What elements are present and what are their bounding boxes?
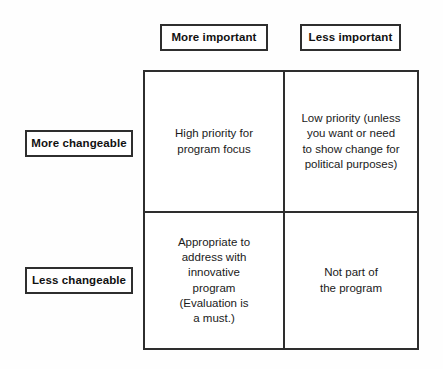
quadrant-low-priority: Low priority (unless you want or need to… <box>285 72 417 213</box>
column-header-more-important-label: More important <box>171 31 256 44</box>
quadrant-not-part-of-program: Not part of the program <box>285 213 417 348</box>
column-header-less-important-label: Less important <box>309 31 393 44</box>
quadrant-high-priority: High priority for program focus <box>145 72 285 213</box>
row-header-more-changeable-label: More changeable <box>31 137 126 150</box>
row-header-less-changeable-label: Less changeable <box>32 274 126 287</box>
priority-matrix-figure: More important Less important More chang… <box>0 0 443 369</box>
quadrant-high-priority-text: High priority for program focus <box>175 126 253 156</box>
row-header-less-changeable: Less changeable <box>25 267 133 294</box>
column-header-more-important: More important <box>160 24 268 51</box>
column-header-less-important: Less important <box>300 24 401 51</box>
matrix-grid: High priority for program focus Low prio… <box>143 70 419 350</box>
quadrant-innovative-program: Appropriate to address with innovative p… <box>145 213 285 348</box>
quadrant-innovative-program-text: Appropriate to address with innovative p… <box>178 235 250 326</box>
quadrant-low-priority-text: Low priority (unless you want or need to… <box>301 111 400 172</box>
row-header-more-changeable: More changeable <box>25 130 133 157</box>
quadrant-not-part-of-program-text: Not part of the program <box>320 265 382 295</box>
